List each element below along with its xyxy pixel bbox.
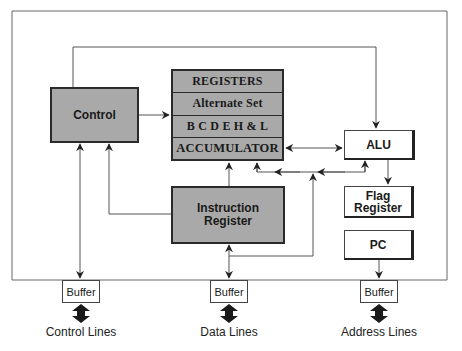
data-buffer-label: Buffer bbox=[214, 286, 243, 298]
address-buffer-label: Buffer bbox=[364, 286, 393, 298]
ir-to-control-line bbox=[109, 144, 171, 214]
instruction-register-block: Instruction Register bbox=[171, 186, 285, 244]
flag-register-label-2: Register bbox=[354, 202, 402, 214]
register-row-alternate-set: Alternate Set bbox=[173, 93, 282, 115]
register-row-registers: REGISTERS bbox=[173, 71, 282, 93]
data-buffer: Buffer bbox=[210, 280, 248, 303]
data-lines-label: Data Lines bbox=[184, 325, 274, 339]
control-buffer-label: Buffer bbox=[66, 286, 95, 298]
instruction-register-label-2: Register bbox=[204, 215, 252, 228]
control-lines-label: Control Lines bbox=[36, 325, 126, 339]
internal-bus-line bbox=[257, 162, 365, 172]
address-lines-double-arrow bbox=[370, 304, 388, 323]
bus-double-arrows bbox=[72, 304, 388, 323]
address-lines-label: Address Lines bbox=[330, 325, 428, 339]
register-row-accumulator: ACCUMULATOR bbox=[173, 138, 282, 159]
pc-label: PC bbox=[370, 238, 387, 252]
control-buffer: Buffer bbox=[62, 280, 100, 303]
address-buffer: Buffer bbox=[360, 280, 398, 303]
register-row-bcdehl: B C D E H & L bbox=[173, 116, 282, 138]
pc-block: PC bbox=[344, 230, 414, 260]
alu-label: ALU bbox=[366, 138, 391, 152]
data-lines-double-arrow bbox=[220, 304, 238, 323]
control-lines-double-arrow bbox=[72, 304, 90, 323]
flag-register-block: Flag Register bbox=[344, 186, 414, 218]
alu-block: ALU bbox=[344, 130, 415, 160]
control-label: Control bbox=[73, 108, 116, 122]
flag-register-label-1: Flag bbox=[366, 190, 391, 202]
register-file: REGISTERS Alternate Set B C D E H & L AC… bbox=[171, 69, 284, 161]
control-block: Control bbox=[50, 87, 139, 143]
